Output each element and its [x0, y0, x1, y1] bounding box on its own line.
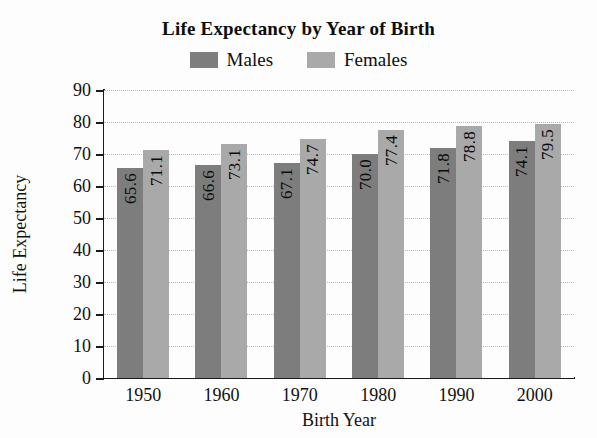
y-axis-tick-label: 20	[73, 304, 91, 325]
bar-females-1990[interactable]: 78.8	[456, 126, 482, 378]
legend-label-males: Males	[227, 49, 273, 71]
x-axis-label-1960: 1960	[204, 385, 240, 406]
y-axis-tick-label: 80	[73, 112, 91, 133]
y-axis-tick-label: 60	[73, 176, 91, 197]
chart-title: Life Expectancy by Year of Birth	[0, 18, 597, 40]
bars-layer: 65.671.166.673.167.174.770.077.471.878.8…	[104, 90, 574, 378]
bar-group: 67.174.7	[261, 90, 339, 378]
bar-group: 70.077.4	[339, 90, 417, 378]
y-axis-tick	[96, 282, 104, 284]
bar-males-1970[interactable]: 67.1	[274, 163, 300, 378]
y-axis-tick	[96, 314, 104, 316]
bar-value-label: 78.8	[461, 131, 478, 162]
bar-chart: Life Expectancy by Year of Birth Males F…	[0, 0, 597, 438]
bar-males-1990[interactable]: 71.8	[430, 148, 456, 378]
bar-females-1950[interactable]: 71.1	[143, 150, 169, 378]
y-axis-tick-label: 30	[73, 272, 91, 293]
bar-group: 66.673.1	[182, 90, 260, 378]
bar-value-label: 73.1	[226, 149, 243, 180]
bar-value-label: 66.6	[200, 170, 217, 201]
bar-group: 65.671.1	[104, 90, 182, 378]
bar-males-1960[interactable]: 66.6	[195, 165, 221, 378]
x-axis-label-2000: 2000	[517, 385, 553, 406]
legend-item-females[interactable]: Females	[307, 49, 407, 71]
legend-swatch-males	[190, 52, 218, 68]
y-axis-tick-label: 40	[73, 240, 91, 261]
y-axis-tick-label: 90	[73, 80, 91, 101]
y-axis-tick	[96, 122, 104, 124]
bar-males-1980[interactable]: 70.0	[352, 154, 378, 378]
bar-value-label: 71.8	[435, 153, 452, 184]
bar-females-2000[interactable]: 79.5	[535, 124, 561, 378]
chart-legend: Males Females	[0, 49, 597, 71]
legend-label-females: Females	[344, 49, 407, 71]
bar-value-label: 71.1	[148, 155, 165, 186]
bar-males-2000[interactable]: 74.1	[509, 141, 535, 378]
y-axis-tick	[96, 346, 104, 348]
y-axis-tick	[96, 218, 104, 220]
x-axis-label-1950: 1950	[125, 385, 161, 406]
x-axis-label-1980: 1980	[360, 385, 396, 406]
legend-swatch-females	[307, 52, 335, 68]
bar-value-label: 67.1	[278, 168, 295, 199]
y-axis-tick	[96, 90, 104, 92]
bar-group: 74.179.5	[496, 90, 574, 378]
y-axis-tick	[96, 250, 104, 252]
bar-females-1970[interactable]: 74.7	[300, 139, 326, 378]
y-axis-tick	[96, 186, 104, 188]
y-axis-tick-label: 70	[73, 144, 91, 165]
bar-value-label: 70.0	[357, 159, 374, 190]
bar-females-1980[interactable]: 77.4	[378, 130, 404, 378]
bar-females-1960[interactable]: 73.1	[221, 144, 247, 378]
x-axis-label-1970: 1970	[282, 385, 318, 406]
legend-item-males[interactable]: Males	[190, 49, 273, 71]
bar-value-label: 77.4	[383, 135, 400, 166]
bar-value-label: 74.7	[304, 144, 321, 175]
bar-value-label: 74.1	[513, 146, 530, 177]
y-axis-tick-label: 10	[73, 336, 91, 357]
x-axis-title: Birth Year	[104, 410, 574, 431]
y-axis-tick-label: 0	[82, 368, 91, 389]
y-axis-tick	[96, 154, 104, 156]
plot-area: 0102030405060708090 65.671.166.673.167.1…	[104, 90, 574, 378]
x-axis-label-1990: 1990	[439, 385, 475, 406]
bar-value-label: 79.5	[539, 129, 556, 160]
y-axis-title: Life Expectancy	[10, 175, 31, 293]
bar-group: 71.878.8	[417, 90, 495, 378]
y-axis-tick	[96, 378, 104, 380]
bar-value-label: 65.6	[122, 173, 139, 204]
y-axis-tick-label: 50	[73, 208, 91, 229]
bar-males-1950[interactable]: 65.6	[117, 168, 143, 378]
